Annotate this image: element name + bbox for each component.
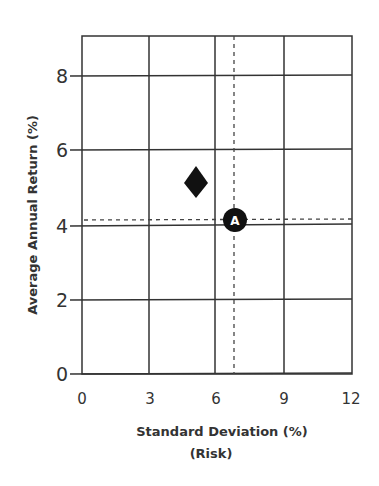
point-a-label: A — [230, 214, 240, 228]
x-axis-sublabel: (Risk) — [190, 446, 233, 461]
xtick-6: 6 — [211, 390, 221, 408]
ytick-2: 2 — [56, 289, 68, 311]
horizontal-reference-line — [84, 219, 352, 220]
x-axis-label: Standard Deviation (%) — [136, 424, 308, 439]
ytick-6: 6 — [56, 139, 68, 161]
xtick-9: 9 — [279, 390, 289, 408]
xtick-0: 0 — [77, 390, 87, 408]
y-axis-label: Average Annual Return (%) — [25, 115, 40, 315]
ytick-0: 0 — [56, 363, 68, 385]
xtick-3: 3 — [145, 390, 155, 408]
grid — [70, 36, 352, 374]
reference-lines — [84, 36, 352, 374]
xtick-12: 12 — [341, 390, 360, 408]
ytick-4: 4 — [56, 215, 68, 237]
ytick-8: 8 — [56, 65, 68, 87]
diamond-marker — [184, 166, 208, 198]
chart: A 8 6 4 2 0 0 3 6 9 12 Standard Deviatio… — [0, 0, 379, 486]
